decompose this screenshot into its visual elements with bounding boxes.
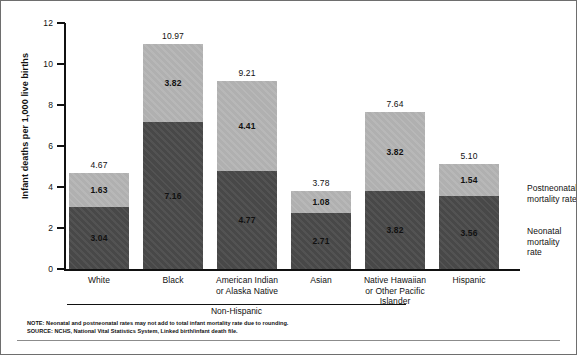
y-axis-tick-label: 2 bbox=[25, 223, 53, 233]
x-axis-category-line: American Indian bbox=[208, 275, 286, 286]
bar-segment-postneonatal[interactable]: 1.08 bbox=[291, 191, 351, 213]
bar-segment-postneonatal[interactable]: 4.41 bbox=[217, 81, 277, 171]
footnote-note: NOTE: Neonatal and postneonatal rates ma… bbox=[27, 320, 288, 328]
x-axis-category-line: Hispanic bbox=[430, 275, 508, 286]
bar-segment-neonatal[interactable]: 7.16 bbox=[143, 122, 203, 269]
bar-segment-label-neonatal: 7.16 bbox=[143, 191, 203, 201]
legend-postneonatal-line1: Postneonatal bbox=[527, 183, 577, 194]
x-axis-category-label: White bbox=[60, 275, 138, 286]
y-axis-title: Infant deaths per 1,000 live births bbox=[20, 26, 30, 226]
bar-segment-neonatal[interactable]: 4.77 bbox=[217, 171, 277, 269]
y-axis-tick-label: 8 bbox=[25, 100, 53, 110]
bar-stack[interactable]: 4.671.633.04 bbox=[69, 173, 129, 269]
bar-total-label: 3.78 bbox=[277, 178, 365, 188]
x-axis-category-line: or Other Pacific bbox=[356, 286, 434, 297]
x-axis-category-line: White bbox=[60, 275, 138, 286]
y-axis-tick-label: 0 bbox=[25, 264, 53, 274]
bar-segment-postneonatal[interactable]: 3.82 bbox=[143, 44, 203, 122]
bar-segment-neonatal[interactable]: 3.82 bbox=[365, 191, 425, 269]
y-axis-tick-label: 10 bbox=[25, 59, 53, 69]
y-axis-tick-label: 6 bbox=[25, 141, 53, 151]
bar-segment-label-postneonatal: 1.08 bbox=[291, 197, 351, 207]
bar-total-label: 4.67 bbox=[55, 160, 143, 170]
y-axis-tick-label: 4 bbox=[25, 182, 53, 192]
bar-segment-label-neonatal: 2.71 bbox=[291, 236, 351, 246]
bar-segment-postneonatal[interactable]: 1.54 bbox=[439, 164, 499, 196]
footnote-source: SOURCE: NCHS, National Vital Statistics … bbox=[27, 328, 288, 336]
x-axis-category-label: Hispanic bbox=[430, 275, 508, 286]
bar-segment-label-postneonatal: 3.82 bbox=[143, 78, 203, 88]
x-axis-category-label: Black bbox=[134, 275, 212, 286]
legend-postneonatal-line2: mortality rate bbox=[527, 194, 577, 205]
legend-neonatal: Neonatal mortality rate bbox=[527, 226, 576, 258]
bar-stack[interactable]: 9.214.414.77 bbox=[217, 81, 277, 269]
x-axis-category-label: American Indianor Alaska Native bbox=[208, 275, 286, 296]
bar-total-label: 5.10 bbox=[425, 151, 513, 161]
y-axis-tick-label: 12 bbox=[25, 18, 53, 28]
bar-stack[interactable]: 3.781.082.71 bbox=[291, 191, 351, 269]
bar-segment-label-postneonatal: 4.41 bbox=[217, 121, 277, 131]
legend-neonatal-line2: mortality rate bbox=[527, 237, 576, 258]
x-axis-category-line: Black bbox=[134, 275, 212, 286]
bar-segment-neonatal[interactable]: 3.04 bbox=[69, 207, 129, 269]
x-axis-category-line: Asian bbox=[282, 275, 360, 286]
bar-segment-label-postneonatal: 1.63 bbox=[69, 185, 129, 195]
bar-segment-label-neonatal: 3.56 bbox=[439, 228, 499, 238]
bar-segment-neonatal[interactable]: 2.71 bbox=[291, 213, 351, 269]
bar-total-label: 7.64 bbox=[351, 99, 439, 109]
bar-stack[interactable]: 5.101.543.56 bbox=[439, 164, 499, 269]
footnotes: NOTE: Neonatal and postneonatal rates ma… bbox=[27, 320, 288, 335]
x-axis-category-line: Native Hawaiian bbox=[356, 275, 434, 286]
plot-area: 4.671.633.0410.973.827.169.214.414.773.7… bbox=[64, 23, 520, 269]
x-axis-category-label: Native Hawaiianor Other PacificIslander bbox=[356, 275, 434, 307]
bar-total-label: 10.97 bbox=[129, 31, 217, 41]
bar-segment-label-neonatal: 4.77 bbox=[217, 215, 277, 225]
legend-neonatal-line1: Neonatal bbox=[527, 226, 576, 237]
bar-segment-label-postneonatal: 1.54 bbox=[439, 175, 499, 185]
bar-segment-postneonatal[interactable]: 1.63 bbox=[69, 173, 129, 206]
bar-segment-postneonatal[interactable]: 3.82 bbox=[365, 112, 425, 190]
bar-stack[interactable]: 10.973.827.16 bbox=[143, 44, 203, 269]
bar-stack[interactable]: 7.643.823.82 bbox=[365, 112, 425, 269]
bar-segment-label-postneonatal: 3.82 bbox=[365, 147, 425, 157]
x-axis-category-label: Asian bbox=[282, 275, 360, 286]
x-axis-line bbox=[64, 269, 520, 271]
legend-postneonatal: Postneonatal mortality rate bbox=[527, 183, 577, 204]
non-hispanic-bracket-label: Non-Hispanic bbox=[67, 306, 406, 316]
bar-segment-label-neonatal: 3.04 bbox=[69, 233, 129, 243]
bar-total-label: 9.21 bbox=[203, 68, 291, 78]
bar-segment-neonatal[interactable]: 3.56 bbox=[439, 196, 499, 269]
bar-segment-label-neonatal: 3.82 bbox=[365, 225, 425, 235]
x-axis-category-line: or Alaska Native bbox=[208, 286, 286, 297]
bottom-divider bbox=[17, 340, 560, 341]
figure-panel: Infant deaths per 1,000 live births 0246… bbox=[0, 0, 577, 355]
